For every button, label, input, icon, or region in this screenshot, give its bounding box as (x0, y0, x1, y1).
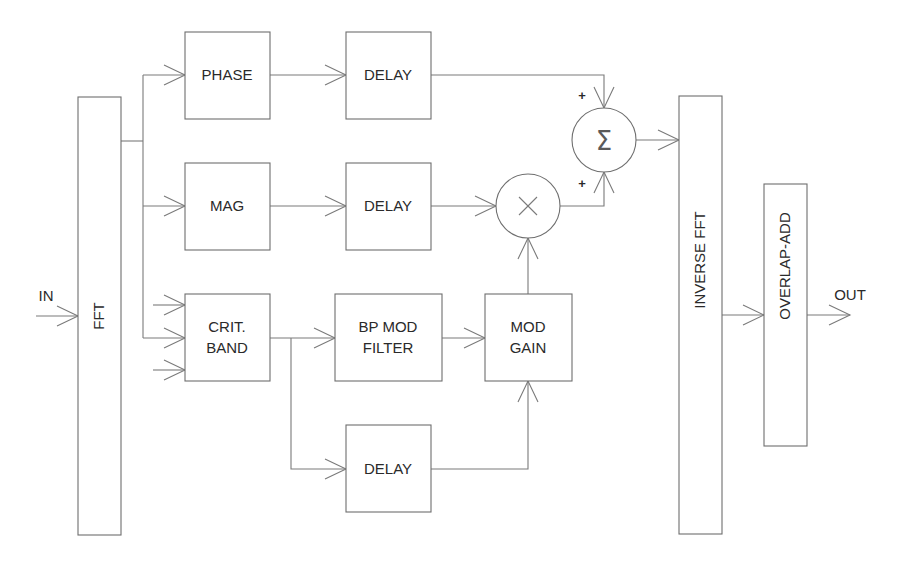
input-label: IN (39, 287, 54, 304)
multiplier-node (496, 174, 560, 238)
block-label-line2: FILTER (363, 339, 414, 356)
block-fft: FFT (78, 97, 121, 535)
block-label: DELAY (364, 197, 412, 214)
block-label: OVERLAP-ADD (776, 212, 793, 320)
sigma-icon: Σ (596, 126, 612, 156)
output-label: OUT (834, 286, 866, 303)
block-crit-band: CRIT. BAND (185, 294, 270, 381)
block-label-line2: GAIN (510, 339, 547, 356)
block-label-line1: BP MOD (359, 318, 418, 335)
block-phase: PHASE (185, 32, 270, 119)
block-mag: MAG (185, 163, 270, 250)
block-bp-mod-filter: BP MOD FILTER (335, 294, 442, 381)
block-diagram: FFT PHASE MAG CRIT. BAND DELAY DELAY BP … (0, 0, 899, 563)
block-label: INVERSE FFT (691, 211, 708, 309)
block-label: PHASE (202, 66, 253, 83)
block-overlap-add: OVERLAP-ADD (764, 184, 807, 446)
block-label-line1: MOD (511, 318, 546, 335)
block-inverse-fft: INVERSE FFT (679, 96, 722, 534)
block-delay-mag: DELAY (346, 163, 431, 250)
plus-sign-top: + (578, 88, 586, 103)
block-label: DELAY (364, 460, 412, 477)
arrowheads (57, 65, 850, 479)
block-label-line1: CRIT. (208, 318, 246, 335)
wires (36, 75, 850, 469)
block-label: DELAY (364, 66, 412, 83)
block-label: FFT (90, 302, 107, 330)
wire-delay-modgain (431, 381, 528, 469)
plus-sign-bottom: + (578, 176, 586, 191)
block-label-line2: BAND (206, 339, 248, 356)
block-label: MAG (210, 197, 244, 214)
block-mod-gain: MOD GAIN (485, 294, 572, 381)
block-delay-phase: DELAY (346, 32, 431, 119)
block-delay-bottom: DELAY (346, 425, 431, 512)
